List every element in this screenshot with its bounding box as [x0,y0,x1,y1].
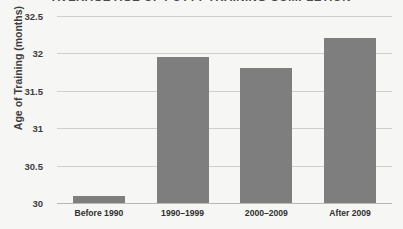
gridline [57,16,392,17]
bar[interactable] [324,38,376,203]
y-axis-tick-label: 31 [0,123,43,134]
y-axis-tick-label: 32 [0,48,43,59]
y-axis-tick-label: 30.5 [0,160,43,171]
bar-chart: AVERAGE AGE OF POTTY TRAINING COMPLETION… [0,0,403,229]
chart-title: AVERAGE AGE OF POTTY TRAINING COMPLETION [0,0,403,3]
bar[interactable] [157,57,209,203]
y-axis-tick-label: 32.5 [0,11,43,22]
x-axis-category-label: After 2009 [329,208,371,218]
x-axis-category-label: Before 1990 [75,208,124,218]
y-axis-tick-label: 31.5 [0,85,43,96]
plot-area: 32.53231.53130.530 [57,16,392,203]
gridline [57,203,392,204]
x-axis-category-label: 1990–1999 [161,208,204,218]
bar[interactable] [240,68,292,203]
bar[interactable] [73,196,125,203]
x-axis-category-label: 2000–2009 [245,208,288,218]
y-axis-tick-label: 30 [0,198,43,209]
